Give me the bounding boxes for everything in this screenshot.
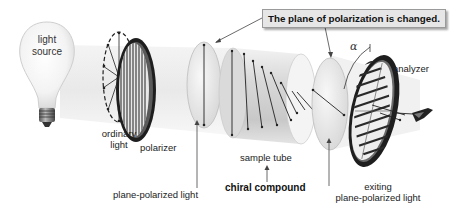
alpha-symbol: α: [350, 40, 357, 53]
exiting-light-disc: [312, 58, 348, 150]
callout-box: The plane of polarization is changed.: [262, 9, 446, 28]
exiting-light-label-line1: exiting: [323, 181, 433, 192]
polarizer-filter: [116, 38, 156, 142]
plane-polarized-light-label: plane-polarized light: [113, 189, 198, 200]
plane-polarized-disc: [187, 42, 221, 128]
ordinary-light-label: ordinary light: [94, 128, 144, 150]
analyzer-label: analyzer: [393, 63, 429, 74]
callout-text: The plane of polarization is changed.: [268, 13, 440, 24]
light-source-label: light source: [24, 34, 70, 58]
exiting-light-label-line2: plane-polarized light: [323, 192, 433, 203]
ordinary-light-label-line2: light: [94, 139, 144, 150]
polarizer-label: polarizer: [140, 142, 176, 153]
exiting-light-label: exiting plane-polarized light: [323, 181, 433, 203]
polarimeter-diagram: The plane of polarization is changed. li…: [0, 0, 453, 214]
sample-tube: [219, 48, 316, 144]
light-source-label-line1: light: [24, 34, 70, 46]
light-source-label-line2: source: [24, 46, 70, 58]
chiral-compound-label: chiral compound: [225, 182, 306, 193]
sample-tube-label: sample tube: [240, 152, 292, 163]
ordinary-light-label-line1: ordinary: [94, 128, 144, 139]
